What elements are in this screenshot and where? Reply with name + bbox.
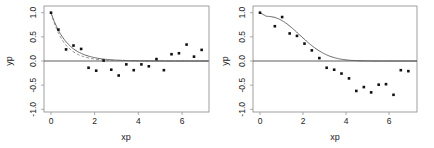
data-point	[163, 69, 166, 72]
data-point	[296, 35, 299, 38]
fit-curves	[260, 13, 417, 61]
data-point	[407, 70, 410, 73]
y-tick-label: 1.0	[237, 7, 247, 19]
y-axis-ticks: -1.0-0.50.00.51.0	[28, 7, 44, 117]
y-tick-label: 1.0	[28, 7, 38, 19]
x-tick-label: 6	[180, 116, 185, 126]
fit-curve-solid	[260, 13, 417, 61]
data-point	[281, 16, 284, 19]
y-tick-label: -0.5	[28, 78, 38, 93]
data-point	[178, 52, 181, 55]
fit-curve-solid	[51, 13, 208, 61]
y-tick-label: 0.0	[237, 55, 247, 67]
data-point	[348, 77, 351, 80]
data-point	[72, 44, 75, 47]
fit-curve-dashed	[51, 13, 208, 61]
data-point	[288, 32, 291, 35]
data-point	[170, 53, 173, 56]
data-point	[311, 49, 314, 52]
data-point	[155, 58, 158, 61]
data-point	[370, 91, 373, 94]
data-point	[355, 90, 358, 93]
x-tick-label: 2	[92, 116, 97, 126]
x-tick-label: 0	[258, 116, 263, 126]
y-tick-label: 0.5	[237, 31, 247, 43]
x-tick-label: 6	[387, 116, 392, 126]
data-point	[117, 74, 120, 77]
fit-curves	[51, 13, 208, 61]
data-point	[87, 66, 90, 69]
data-point	[392, 94, 395, 97]
data-point	[102, 59, 105, 62]
data-point	[303, 42, 306, 45]
data-point	[140, 63, 143, 66]
x-axis-ticks: 0246	[258, 112, 392, 126]
data-point	[340, 72, 343, 75]
data-point	[363, 86, 366, 89]
data-point	[185, 43, 188, 46]
data-point	[148, 65, 151, 68]
data-points	[259, 11, 410, 96]
y-tick-label: 0.5	[28, 31, 38, 43]
y-axis-label: yp	[4, 56, 14, 66]
data-point	[57, 28, 60, 31]
x-axis-ticks: 0246	[49, 112, 185, 126]
data-point	[259, 11, 262, 14]
x-tick-label: 4	[344, 116, 349, 126]
x-tick-label: 0	[49, 116, 54, 126]
y-axis-ticks: -1.0-0.50.00.51.0	[237, 7, 253, 117]
data-point	[65, 48, 68, 51]
y-tick-label: -1.0	[237, 102, 247, 117]
figure: 0246 -1.0-0.50.00.51.0 xp yp 0246 -1.0-0…	[0, 0, 434, 148]
data-point	[385, 83, 388, 86]
data-point	[318, 57, 321, 60]
data-point	[377, 83, 380, 86]
y-tick-label: 0.0	[28, 55, 38, 67]
data-point	[325, 66, 328, 69]
x-tick-label: 4	[136, 116, 141, 126]
data-point	[333, 68, 336, 71]
data-point	[95, 69, 98, 72]
data-point	[400, 69, 403, 72]
right-plot: 0246 -1.0-0.50.00.51.0 xp yp	[220, 6, 417, 142]
y-axis-label: yp	[220, 56, 230, 66]
plot-frame	[44, 6, 209, 112]
y-tick-label: -1.0	[28, 102, 38, 117]
x-tick-label: 2	[301, 116, 306, 126]
data-point	[125, 63, 128, 66]
data-point	[274, 25, 277, 28]
data-point	[50, 11, 53, 14]
data-point	[200, 49, 203, 52]
data-point	[110, 68, 113, 71]
x-axis-label: xp	[121, 132, 131, 142]
left-plot: 0246 -1.0-0.50.00.51.0 xp yp	[4, 6, 209, 142]
data-point	[132, 69, 135, 72]
y-tick-label: -0.5	[237, 78, 247, 93]
data-points	[50, 11, 203, 76]
data-point	[80, 48, 83, 51]
data-point	[193, 55, 196, 58]
x-axis-label: xp	[330, 132, 340, 142]
